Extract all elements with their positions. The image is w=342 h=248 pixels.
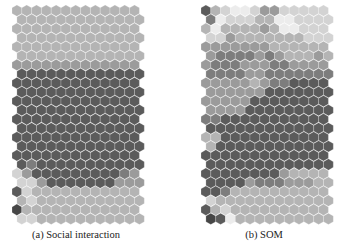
hex-cell — [235, 213, 245, 224]
hex-cell — [265, 213, 275, 224]
hex-map-som — [0, 0, 342, 228]
hex-cell — [275, 213, 285, 224]
caption-social-interaction: (a) Social interaction — [0, 229, 152, 240]
hex-cell — [216, 213, 226, 224]
hex-cell — [284, 213, 294, 224]
hex-cell — [294, 213, 304, 224]
hex-cell — [314, 213, 324, 224]
hex-cell — [324, 213, 334, 224]
panel-som — [0, 0, 342, 228]
hex-cell — [206, 213, 216, 224]
caption-som: (b) SOM — [190, 229, 338, 240]
hex-cell — [226, 213, 236, 224]
hex-cell — [245, 213, 255, 224]
hex-cell — [304, 213, 314, 224]
hex-cell — [255, 213, 265, 224]
